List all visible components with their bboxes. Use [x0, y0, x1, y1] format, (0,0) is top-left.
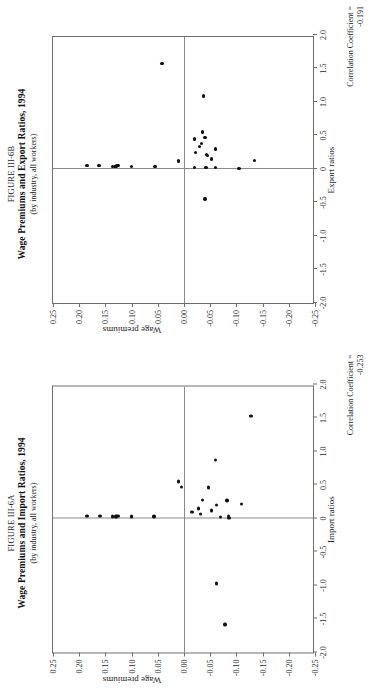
y-axis-tick-label: 0.15	[101, 310, 110, 324]
x-axis-tick	[313, 101, 317, 102]
y-axis-tick-label: -0.25	[311, 310, 320, 327]
y-axis-tick-label: 0.05	[153, 310, 162, 324]
y-axis-tick	[289, 652, 290, 656]
x-axis-tick	[313, 34, 317, 35]
figure-b-title-block: FIGURE III-6B Wage Premiums and Export R…	[6, 0, 39, 348]
y-axis-tick-label: 0.20	[75, 659, 84, 673]
y-axis-tick-label: -0.20	[284, 310, 293, 327]
y-axis-tick	[236, 303, 237, 307]
x-axis-tick	[313, 517, 317, 518]
y-axis-tick-label: -0.25	[311, 659, 320, 676]
y-axis-tick-label: 0.25	[49, 659, 58, 673]
y-axis-tick	[315, 303, 316, 307]
y-axis-tick	[132, 303, 133, 307]
data-point	[190, 510, 193, 513]
y-axis-tick-label: 0.20	[75, 310, 84, 324]
data-point	[97, 164, 100, 167]
data-point	[177, 159, 180, 162]
x-axis-tick	[313, 269, 317, 270]
data-point	[214, 458, 217, 461]
data-point	[203, 136, 206, 139]
data-point	[198, 145, 201, 148]
data-point	[98, 514, 101, 517]
figure-a-plot-frame: -2.0-1.5-1.0-0.500.51.01.52.0-0.25-0.20-…	[52, 385, 314, 653]
figure-b-correlation-value: -0.191	[356, 6, 365, 27]
figure-b-title: Wage Premiums and Export Ratios, 1994	[17, 0, 28, 348]
data-point	[152, 514, 155, 517]
data-point	[194, 151, 197, 154]
figure-b-yaxis-title: Wage premiums	[72, 325, 192, 335]
x-axis-tick	[313, 202, 317, 203]
figure-a-correlation-note: Correlation Coefficient = -0.253	[346, 354, 366, 435]
data-point	[225, 498, 228, 501]
figure-b-xaxis-title: Export ratios	[326, 36, 336, 304]
x-axis-tick	[313, 168, 317, 169]
figure-a-number: FIGURE III-6A	[6, 348, 16, 697]
x-axis-tick	[313, 135, 317, 136]
figure-iii-6a: FIGURE III-6A Wage Premiums and Import R…	[0, 348, 372, 697]
y-axis-tick-label: 0.00	[180, 659, 189, 673]
data-point	[223, 622, 226, 625]
x-axis-tick	[313, 450, 317, 451]
x-axis-tick	[313, 484, 317, 485]
data-point	[201, 130, 204, 133]
y-axis-tick-label: -0.15	[258, 310, 267, 327]
data-point	[214, 147, 217, 150]
data-point	[199, 512, 202, 515]
data-point	[153, 165, 156, 168]
data-point	[215, 503, 218, 506]
x-axis-tick	[313, 235, 317, 236]
figure-b-number: FIGURE III-6B	[6, 0, 16, 348]
x-axis-tick	[313, 383, 317, 384]
figure-b-zero-line-horizontal	[184, 37, 185, 303]
data-point	[249, 414, 252, 417]
y-axis-tick-label: -0.10	[232, 310, 241, 327]
y-axis-tick-label: 0.10	[127, 659, 136, 673]
y-axis-tick	[132, 652, 133, 656]
x-axis-tick	[313, 584, 317, 585]
data-point	[240, 502, 243, 505]
y-axis-tick	[289, 303, 290, 307]
y-axis-tick-label: 0.00	[180, 310, 189, 324]
figure-b-correlation-note: Correlation Coefficient = -0.191	[346, 6, 366, 87]
data-point	[201, 498, 204, 501]
figure-iii-6b: FIGURE III-6B Wage Premiums and Export R…	[0, 0, 372, 348]
y-axis-tick-label: 0.15	[101, 659, 110, 673]
data-point	[202, 94, 205, 97]
y-axis-tick-label: 0.10	[127, 310, 136, 324]
data-point	[177, 479, 180, 482]
data-point	[227, 514, 230, 517]
figure-b-canvas: FIGURE III-6B Wage Premiums and Export R…	[0, 0, 372, 348]
data-point	[206, 154, 209, 157]
figure-b-plot-area	[53, 37, 313, 303]
figure-a-title: Wage Premiums and Import Ratios, 1994	[17, 348, 28, 697]
y-axis-tick	[236, 652, 237, 656]
data-point	[253, 159, 256, 162]
y-axis-tick-label: -0.05	[206, 659, 215, 676]
y-axis-tick-label: -0.15	[258, 659, 267, 676]
data-point	[116, 164, 119, 167]
figure-a-xaxis-title: Import ratios	[326, 385, 336, 653]
figure-a-yaxis-title: Wage premiums	[72, 674, 192, 684]
x-axis-tick	[313, 618, 317, 619]
y-axis-tick	[79, 652, 80, 656]
data-point	[210, 508, 213, 511]
y-axis-tick-label: -0.10	[232, 659, 241, 676]
y-axis-tick	[79, 303, 80, 307]
data-point	[200, 142, 203, 145]
y-axis-tick-label: 0.05	[153, 659, 162, 673]
y-axis-tick	[105, 652, 106, 656]
figure-b-zero-line-vertical	[53, 168, 313, 169]
data-point	[180, 485, 183, 488]
y-axis-tick-label: -0.20	[284, 659, 293, 676]
figure-b-plot-frame: -2.0-1.5-1.0-0.500.51.01.52.0-0.25-0.20-…	[52, 36, 314, 304]
figure-b-subtitle: (by industry, all workers)	[29, 0, 38, 348]
data-point	[160, 62, 163, 65]
data-point	[210, 157, 213, 160]
figure-a-correlation-value: -0.253	[356, 354, 365, 375]
x-axis-tick	[313, 551, 317, 552]
data-point	[207, 485, 210, 488]
x-axis-tick	[313, 68, 317, 69]
figure-page: { "page": { "background": "#ffffff", "po…	[0, 0, 372, 697]
figure-a-correlation-label: Correlation Coefficient =	[346, 354, 355, 435]
